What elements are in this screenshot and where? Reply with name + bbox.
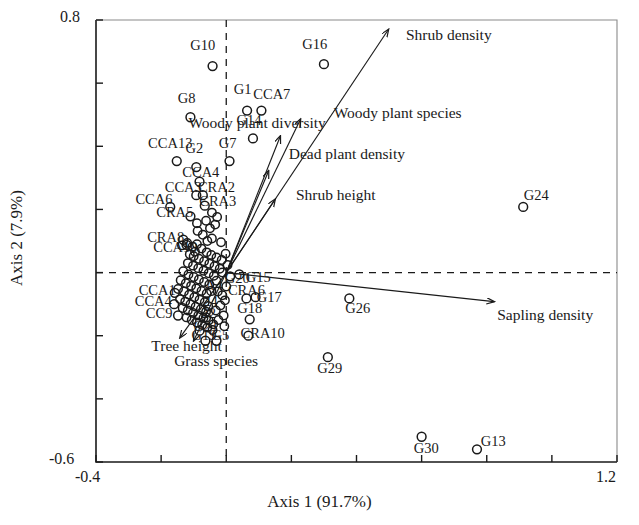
cluster-point-marker xyxy=(202,217,210,225)
scatter-point-marker xyxy=(174,311,183,320)
cluster-point-marker xyxy=(205,260,213,268)
scatter-point-marker xyxy=(172,157,181,166)
scatter-point-label: G13 xyxy=(481,433,506,449)
scatter-point-marker xyxy=(320,60,329,69)
scatter-point-marker xyxy=(245,315,254,324)
vector-label: Dead plant density xyxy=(289,145,405,162)
vector-label: Woody plant diversity xyxy=(188,114,326,131)
scatter-point-marker xyxy=(519,203,528,212)
figure-canvas: G10G1CCA7G8G14G7CCA13G2CCA4CCA3CRA2CCA6C… xyxy=(0,0,639,525)
scatter-point-marker xyxy=(249,134,258,143)
scatter-point-label: G18 xyxy=(237,300,262,316)
cluster-point-marker xyxy=(189,273,197,281)
scatter-point-label: G1 xyxy=(234,81,252,97)
scatter-point-label: G16 xyxy=(302,36,327,52)
x-axis-max-tick-label: 1.2 xyxy=(596,468,616,486)
cluster-point-marker xyxy=(208,208,216,216)
scatter-point-label: CCA7 xyxy=(253,86,290,102)
cluster-point-marker xyxy=(189,261,197,269)
cluster-point-marker xyxy=(192,284,200,292)
scatter-point-label: G7 xyxy=(219,135,237,151)
scatter-point-label: G29 xyxy=(317,360,342,376)
vector-label: Shrub height xyxy=(296,186,376,203)
ordination-biplot-svg: G10G1CCA7G8G14G7CCA13G2CCA4CCA3CRA2CCA6C… xyxy=(0,0,639,525)
cluster-point-marker xyxy=(217,238,225,246)
vector-label: Grass species xyxy=(174,352,258,369)
vector-label: Shrub density xyxy=(406,26,492,43)
scatter-point-label: CC9 xyxy=(146,305,173,321)
cluster-point-marker xyxy=(199,266,207,274)
scatter-point-label: CRA3 xyxy=(199,193,236,209)
vector-label: Woody plant species xyxy=(334,104,462,121)
scatter-point-label: CRA5 xyxy=(156,204,193,220)
scatter-point-label: G8 xyxy=(178,90,196,106)
cluster-point-marker xyxy=(184,259,192,267)
cluster-point-marker xyxy=(221,249,229,257)
scatter-point-label: G10 xyxy=(190,37,215,53)
scatter-point-label: G26 xyxy=(345,300,370,316)
y-axis-title: Axis 2 (7.9%) xyxy=(7,138,27,338)
cluster-point-marker xyxy=(210,262,218,270)
y-axis-min-tick-label: -0.6 xyxy=(49,450,74,468)
cluster-point-marker xyxy=(200,257,208,265)
vector-arrow xyxy=(226,119,300,272)
x-axis-min-tick-label: -0.4 xyxy=(75,468,100,486)
x-axis-title: Axis 1 (91.7%) xyxy=(0,492,639,512)
scatter-point-label: CRA10 xyxy=(241,325,285,341)
y-axis-max-tick-label: 0.8 xyxy=(60,8,80,26)
scatter-point-label: A4 xyxy=(205,277,223,293)
cluster-point-marker xyxy=(213,213,221,221)
scatter-point-label: CCA10 xyxy=(153,239,197,255)
cluster-point-marker xyxy=(187,282,195,290)
cluster-point-marker xyxy=(212,253,220,261)
vector-label: Sapling density xyxy=(497,306,593,323)
scatter-point-marker xyxy=(225,157,234,166)
cluster-point-marker xyxy=(195,275,203,283)
scatter-point-label: G2 xyxy=(185,140,203,156)
cluster-point-marker xyxy=(194,264,202,272)
scatter-point-marker xyxy=(208,62,217,71)
cluster-point-marker xyxy=(219,311,227,319)
scatter-point-label: G30 xyxy=(414,440,439,456)
scatter-point-label: G24 xyxy=(524,187,550,203)
